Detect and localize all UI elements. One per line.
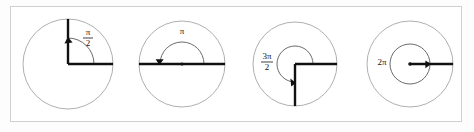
angle-diagram-svg: π 2 π 3π 2 bbox=[0, 0, 474, 132]
angle-panel-2: π bbox=[139, 21, 225, 107]
angle-label-3-numerator: 3π bbox=[262, 51, 272, 61]
angle-label-1-numerator: π bbox=[86, 27, 91, 37]
angle-label-1-denominator: 2 bbox=[86, 38, 91, 48]
angle-panel-3: 3π 2 bbox=[253, 22, 337, 106]
angle-label-2: π bbox=[180, 26, 185, 36]
angle-panel-1: π 2 bbox=[23, 19, 113, 109]
center-dot-2 bbox=[180, 62, 183, 65]
angle-arc-2 bbox=[160, 42, 204, 64]
angle-panel-4: 2π bbox=[367, 21, 453, 107]
angle-label-4: 2π bbox=[377, 57, 387, 67]
center-dot-4 bbox=[408, 62, 412, 66]
figure-root: π 2 π 3π 2 bbox=[0, 0, 474, 132]
angle-label-3-denominator: 2 bbox=[265, 62, 270, 72]
